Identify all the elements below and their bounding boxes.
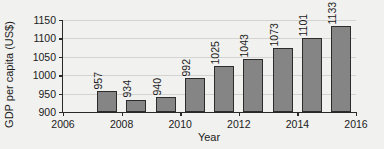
x-tick-label: 2008	[110, 118, 133, 130]
y-tick-mark	[59, 75, 63, 76]
bar: 1043	[243, 59, 263, 112]
x-axis-title: Year	[62, 131, 356, 143]
x-tick-label: 2012	[227, 118, 250, 130]
bar-value-label: 992	[180, 59, 191, 77]
bar: 957	[97, 91, 117, 112]
x-tick-mark	[239, 112, 240, 116]
bar-value-label: 934	[122, 80, 133, 98]
bar-value-label: 1073	[268, 23, 279, 46]
gridline-y	[63, 20, 356, 21]
y-tick-label: 1150	[33, 14, 56, 26]
x-tick-label: 2006	[51, 118, 74, 130]
y-tick-mark	[59, 94, 63, 95]
bar: 1073	[273, 48, 293, 112]
y-tick-label: 950	[38, 88, 56, 100]
x-tick-label: 2010	[169, 118, 192, 130]
y-tick-label: 900	[38, 106, 56, 118]
bar: 1025	[214, 66, 234, 112]
bar-value-label: 1133	[327, 2, 338, 25]
y-tick-label: 1100	[33, 32, 56, 44]
y-tick-label: 1050	[33, 51, 56, 63]
x-tick-mark	[297, 112, 298, 116]
x-tick-mark	[63, 112, 64, 116]
bar: 940	[156, 97, 176, 112]
x-tick-mark	[180, 112, 181, 116]
x-tick-mark	[122, 112, 123, 116]
bar: 934	[126, 100, 146, 113]
bar: 992	[185, 78, 205, 112]
bar-value-label: 1043	[239, 34, 250, 57]
y-tick-mark	[59, 20, 63, 21]
bar: 1133	[331, 26, 351, 112]
bar-value-label: 1101	[298, 13, 309, 36]
x-tick-mark	[356, 112, 357, 116]
bar-value-label: 957	[92, 72, 103, 90]
plot-area: 9009501000105011001150200620082010201220…	[62, 20, 356, 113]
bar-value-label: 940	[151, 78, 162, 96]
x-tick-label: 2014	[286, 118, 309, 130]
bar: 1101	[302, 38, 322, 112]
x-tick-label: 2016	[344, 118, 367, 130]
y-tick-mark	[59, 38, 63, 39]
y-tick-mark	[59, 57, 63, 58]
y-axis-title: GDP per capita (US$)	[0, 0, 18, 149]
y-tick-label: 1000	[33, 69, 56, 81]
bar-value-label: 1025	[210, 41, 221, 64]
bar-chart-figure: GDP per capita (US$) 9009501000105011001…	[0, 0, 384, 149]
